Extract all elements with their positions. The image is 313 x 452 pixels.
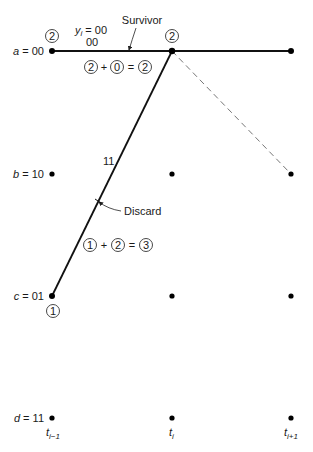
time-label-t-prev: ti−1	[46, 426, 60, 441]
node-a-t-prev	[49, 48, 55, 54]
svg-text:ti: ti	[169, 426, 174, 441]
branch-label-c-to-a: 11	[103, 155, 114, 167]
path-metric-a-prev: 2	[46, 30, 59, 43]
state-value: 11	[33, 412, 44, 424]
svg-text:ti+1: ti+1	[284, 426, 298, 441]
node-b-t	[169, 171, 174, 176]
svg-text:3: 3	[143, 239, 149, 251]
svg-text:0: 0	[114, 61, 120, 73]
time-label-t: ti	[169, 426, 174, 441]
svg-text:=: =	[128, 61, 134, 73]
node-a-t-next	[288, 48, 294, 54]
path-metric-a-current: 2	[166, 30, 179, 43]
svg-text:2: 2	[169, 30, 175, 42]
svg-text:a = 00: a = 00	[13, 45, 44, 57]
survivor-metric-sum: 2 + 0 = 2	[85, 61, 152, 74]
svg-text:ti−1: ti−1	[46, 426, 60, 441]
svg-text:1: 1	[87, 239, 93, 251]
node-c-t-prev	[49, 293, 55, 299]
state-label-b: b = 10	[13, 168, 44, 180]
survivor-arrow-icon	[129, 28, 136, 50]
trellis-diagram: a = 00 b = 10 c = 01 d = 11 ti−1 ti ti+1…	[0, 0, 313, 452]
discard-annotation: Discard	[124, 205, 161, 217]
svg-text:=: =	[129, 239, 135, 251]
survivor-annotation: Survivor	[122, 14, 163, 26]
svg-text:2: 2	[88, 61, 94, 73]
svg-text:2: 2	[142, 61, 148, 73]
node-d-t	[169, 415, 174, 420]
svg-text:+: +	[101, 61, 107, 73]
trellis-nodes	[49, 48, 294, 421]
node-c-t	[169, 293, 174, 298]
discarded-branch-c-to-a	[52, 51, 172, 296]
node-d-t-prev	[49, 415, 54, 420]
time-label-t-next: ti+1	[284, 426, 298, 441]
svg-text:1: 1	[50, 305, 56, 317]
svg-text:d = 11: d = 11	[14, 412, 44, 424]
node-d-t-next	[288, 415, 293, 420]
state-label-a: a = 00	[13, 45, 44, 57]
node-c-t-next	[288, 293, 293, 298]
node-b-t-prev	[49, 171, 54, 176]
dashed-branch-a-to-b	[172, 51, 291, 174]
svg-text:2: 2	[49, 30, 55, 42]
node-a-t	[169, 48, 175, 54]
state-label-c: c = 01	[14, 290, 44, 302]
state-value: 10	[32, 168, 44, 180]
svg-text:2: 2	[115, 239, 121, 251]
discard-arrow-icon	[99, 202, 121, 211]
state-label-d: d = 11	[14, 412, 44, 424]
svg-text:b = 10: b = 10	[13, 168, 44, 180]
svg-text:+: +	[101, 239, 107, 251]
discard-metric-sum: 1 + 2 = 3	[84, 239, 153, 252]
branch-label-a-to-a: 00	[86, 36, 98, 48]
svg-text:c = 01: c = 01	[14, 290, 44, 302]
node-b-t-next	[288, 171, 293, 176]
path-metric-c-prev: 1	[47, 305, 60, 318]
state-value: 00	[32, 45, 44, 57]
state-value: 01	[32, 290, 44, 302]
